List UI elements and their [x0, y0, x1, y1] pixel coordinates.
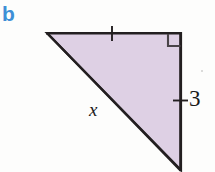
hypotenuse-length-label: x	[89, 99, 97, 121]
vertical-side-length-label: 3	[189, 86, 201, 112]
geometry-figure-panel: b x 3	[0, 0, 215, 172]
scan-artifact-speck	[201, 70, 203, 72]
triangle-diagram	[0, 0, 215, 172]
